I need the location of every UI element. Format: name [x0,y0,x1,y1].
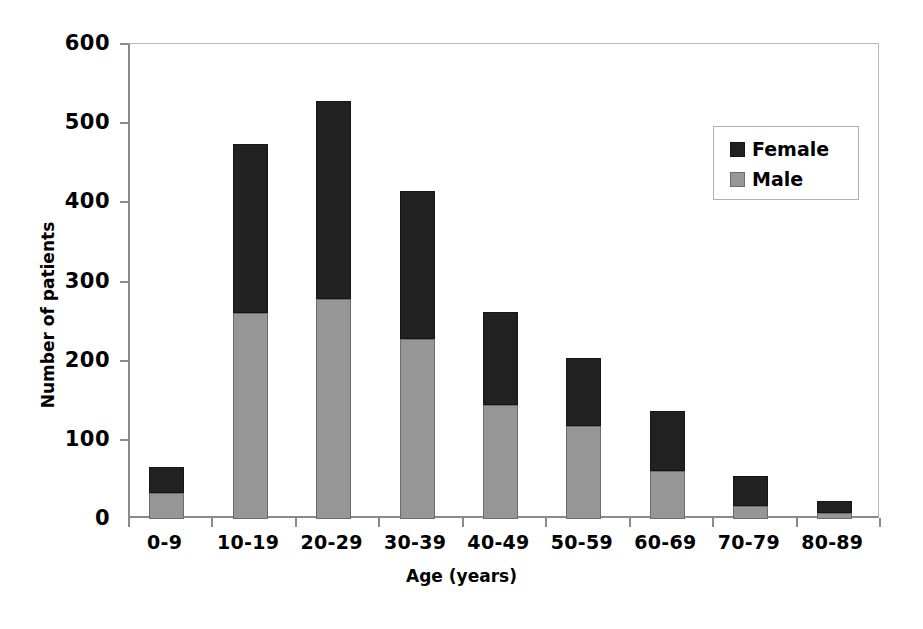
bar-segment-female[interactable] [733,476,768,506]
bar-stack[interactable] [733,44,768,519]
bar-stack[interactable] [149,44,184,519]
legend-label-female: Female [752,140,829,159]
x-tick-mark [545,518,547,527]
y-axis-title: Number of patients [38,205,58,425]
y-tick-label: 0 [0,506,110,530]
bar-segment-male[interactable] [817,513,852,519]
bar-segment-female[interactable] [817,501,852,513]
x-tick-mark [211,518,213,527]
bar-segment-female[interactable] [233,144,268,313]
y-tick-label: 300 [0,269,110,293]
x-tick-mark [378,518,380,527]
x-tick-mark [629,518,631,527]
x-tick-mark [796,518,798,527]
bar-segment-female[interactable] [400,191,435,339]
bar-stack[interactable] [483,44,518,519]
bar-segment-male[interactable] [400,339,435,519]
x-tick-label: 80-89 [777,531,887,553]
x-tick-mark [462,518,464,527]
bar-segment-male[interactable] [650,471,685,519]
plot-area [128,43,879,518]
bar-segment-female[interactable] [566,358,601,426]
x-tick-mark [295,518,297,527]
bar-segment-male[interactable] [733,506,768,519]
bar-stack[interactable] [566,44,601,519]
x-tick-mark [128,518,130,527]
bar-segment-male[interactable] [566,426,601,519]
bar-segment-male[interactable] [149,493,184,519]
bar-stack[interactable] [400,44,435,519]
bar-segment-female[interactable] [149,467,184,493]
chart-figure: Number of patients 0100200300400500600 0… [0,0,923,629]
legend-item-male[interactable]: Male [730,165,858,193]
x-tick-mark [879,518,881,527]
bar-stack[interactable] [817,44,852,519]
bar-segment-female[interactable] [316,101,351,299]
bar-segment-male[interactable] [316,299,351,519]
legend-item-female[interactable]: Female [730,135,858,163]
y-tick-label: 100 [0,427,110,451]
bar-stack[interactable] [650,44,685,519]
bar-stack[interactable] [233,44,268,519]
y-tick-label: 600 [0,31,110,55]
bar-segment-female[interactable] [650,411,685,470]
legend-label-male: Male [752,170,803,189]
y-tick-label: 400 [0,189,110,213]
x-axis-title: Age (years) [0,566,923,586]
bar-segment-female[interactable] [483,312,518,405]
chart-legend: Female Male [713,126,859,200]
legend-swatch-male-icon [730,172,745,187]
y-tick-label: 200 [0,348,110,372]
legend-swatch-female-icon [730,142,745,157]
bar-segment-male[interactable] [233,313,268,519]
bar-segment-male[interactable] [483,405,518,519]
x-tick-mark [712,518,714,527]
y-tick-label: 500 [0,110,110,134]
bar-stack[interactable] [316,44,351,519]
